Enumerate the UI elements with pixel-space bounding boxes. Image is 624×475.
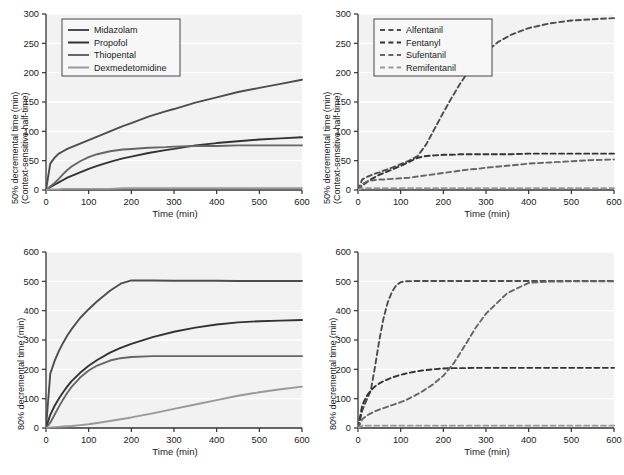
x-axis-tick-label: 0 <box>43 435 48 445</box>
x-axis-tick-label: 600 <box>606 197 622 207</box>
legend-label: Sufentanil <box>406 50 446 60</box>
legend: AlfentanilFentanylSufentanilRemifentanil <box>374 19 492 76</box>
y-axis-tick-label: 250 <box>335 39 351 49</box>
legend: MidazolamPropofolThiopentalDexmedetomidi… <box>62 19 180 76</box>
panel-top-left: 50% decremental time (min) (Context-sens… <box>0 0 312 237</box>
x-axis-tick-label: 100 <box>81 435 97 445</box>
x-axis-tick-label: 200 <box>124 197 140 207</box>
panel-top-right: 50% decremental time (min) (Context-sens… <box>312 0 624 237</box>
plot-area-top-right: 0501001502002503000100200300400500600Alf… <box>312 0 624 237</box>
figure-root: 50% decremental time (min) (Context-sens… <box>0 0 624 475</box>
y-axis-tick-label: 300 <box>335 9 351 19</box>
x-axis-tick-label: 0 <box>355 197 360 207</box>
x-axis-tick-label: 200 <box>124 435 140 445</box>
y-axis-tick-label: 200 <box>23 68 39 78</box>
x-axis-tick-label: 200 <box>436 435 452 445</box>
x-axis-tick-label: 300 <box>166 435 182 445</box>
y-axis-tick-label: 0 <box>34 185 39 195</box>
y-axis-tick-label: 0 <box>346 423 351 433</box>
x-axis-tick-label: 400 <box>209 197 225 207</box>
x-axis-tick-label: 600 <box>606 435 622 445</box>
y-axis-tick-label: 200 <box>335 68 351 78</box>
plot-area-bottom-right: 01002003004005006000100200300400500600 <box>312 238 624 475</box>
y-axis-tick-label: 0 <box>346 185 351 195</box>
y-axis-label-line2: (Context-sensitive half-time) <box>332 92 342 204</box>
y-axis-label-line1: 80% decremental time (min) <box>328 318 338 430</box>
y-axis-tick-label: 600 <box>23 247 39 257</box>
x-axis-tick-label: 600 <box>294 435 310 445</box>
y-axis-tick-label: 400 <box>335 306 351 316</box>
legend-label: Fentanyl <box>406 38 441 48</box>
y-axis-label-top-left: 50% decremental time (min) (Context-sens… <box>10 92 31 204</box>
y-axis-label-line1: 50% decremental time (min) <box>10 92 20 204</box>
x-axis-tick-label: 300 <box>478 197 494 207</box>
y-axis-tick-label: 500 <box>23 277 39 287</box>
y-axis-label-top-right: 50% decremental time (min) (Context-sens… <box>322 92 343 204</box>
legend-label: Thiopental <box>94 50 136 60</box>
plot-area-top-left: 0501001502002503000100200300400500600Mid… <box>0 0 312 237</box>
panel-bottom-right: 80% decremental time (min) 0100200300400… <box>312 238 624 475</box>
x-axis-label-top-left: Time (min) <box>50 208 300 219</box>
y-axis-label-line1: 80% decremental time (min) <box>16 318 26 430</box>
x-axis-tick-label: 100 <box>393 435 409 445</box>
x-axis-tick-label: 500 <box>252 197 268 207</box>
legend-label: Propofol <box>94 38 128 48</box>
panel-bottom-left: 80% decremental time (min) 0100200300400… <box>0 238 312 475</box>
x-axis-label-top-right: Time (min) <box>362 208 612 219</box>
y-axis-tick-label: 500 <box>335 277 351 287</box>
x-axis-tick-label: 100 <box>393 197 409 207</box>
x-axis-label-bottom-left: Time (min) <box>50 446 300 457</box>
x-axis-tick-label: 200 <box>436 197 452 207</box>
y-axis-tick-label: 600 <box>335 247 351 257</box>
x-axis-tick-label: 100 <box>81 197 97 207</box>
legend-label: Dexmedetomidine <box>94 63 167 73</box>
x-axis-tick-label: 400 <box>521 435 537 445</box>
y-axis-label-line2: (Context-sensitive half-time) <box>20 92 30 204</box>
y-axis-tick-label: 250 <box>23 39 39 49</box>
y-axis-label-bottom-left: 80% decremental time (min) <box>16 318 26 430</box>
y-axis-tick-label: 0 <box>34 423 39 433</box>
y-axis-tick-label: 300 <box>23 9 39 19</box>
x-axis-tick-label: 500 <box>564 197 580 207</box>
x-axis-tick-label: 400 <box>521 197 537 207</box>
x-axis-tick-label: 600 <box>294 197 310 207</box>
x-axis-tick-label: 500 <box>252 435 268 445</box>
y-axis-label-line1: 50% decremental time (min) <box>322 92 332 204</box>
x-axis-label-bottom-right: Time (min) <box>362 446 612 457</box>
legend-label: Remifentanil <box>406 63 456 73</box>
y-axis-label-bottom-right: 80% decremental time (min) <box>328 318 338 430</box>
legend-label: Midazolam <box>94 25 138 35</box>
plot-area-bottom-left: 01002003004005006000100200300400500600 <box>0 238 312 475</box>
x-axis-tick-label: 0 <box>43 197 48 207</box>
x-axis-tick-label: 0 <box>355 435 360 445</box>
legend-label: Alfentanil <box>406 25 443 35</box>
y-axis-tick-label: 400 <box>23 306 39 316</box>
x-axis-tick-label: 300 <box>166 197 182 207</box>
x-axis-tick-label: 400 <box>209 435 225 445</box>
x-axis-tick-label: 500 <box>564 435 580 445</box>
x-axis-tick-label: 300 <box>478 435 494 445</box>
